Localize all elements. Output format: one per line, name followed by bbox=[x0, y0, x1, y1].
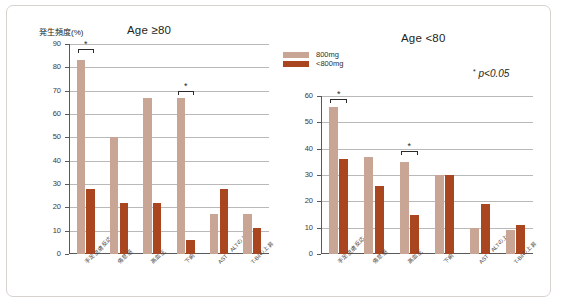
bracket-top bbox=[330, 99, 347, 100]
gridline bbox=[69, 44, 269, 45]
bar-age-lt-80-3-high bbox=[435, 175, 444, 254]
bar-age-ge-80-4-low bbox=[220, 189, 229, 254]
significance-bracket: * bbox=[78, 49, 94, 55]
bracket-right-leg bbox=[93, 49, 94, 53]
legend-swatch-800mg bbox=[283, 52, 309, 58]
bar-age-ge-80-5-high bbox=[243, 214, 252, 254]
y-tick-label: 90 bbox=[39, 39, 61, 48]
y-tick-label: 0 bbox=[291, 249, 313, 258]
bar-age-ge-80-3-high bbox=[177, 98, 186, 254]
bar-age-lt-80-3-low bbox=[445, 175, 454, 254]
legend-item-under-800mg: <800mg bbox=[283, 59, 343, 68]
gridline bbox=[69, 137, 269, 138]
y-axis-line bbox=[69, 44, 70, 254]
y-tick-label: 80 bbox=[39, 62, 61, 71]
bracket-left-leg bbox=[178, 91, 179, 95]
bracket-left-leg bbox=[78, 49, 79, 53]
chart-title-age-lt-80: Age <80 bbox=[401, 32, 446, 44]
plot-area-age-lt-80: 0102030405060手足皮膚反応倦怠感高血圧下痢AST・ALTの上昇T-B… bbox=[321, 96, 533, 254]
gridline bbox=[321, 122, 533, 123]
gridline bbox=[321, 175, 533, 176]
bar-age-ge-80-2-low bbox=[153, 203, 162, 254]
bar-age-ge-80-1-high bbox=[110, 137, 119, 254]
bracket-top bbox=[178, 91, 194, 92]
figure-frame: Age ≥80発生頻度(%)0102030405060708090手足皮膚反応倦… bbox=[6, 5, 551, 297]
significance-bracket: * bbox=[401, 151, 418, 157]
bracket-left-leg bbox=[401, 151, 402, 155]
y-tick bbox=[65, 254, 69, 255]
y-tick bbox=[317, 254, 321, 255]
bracket-top bbox=[401, 151, 418, 152]
gridline bbox=[69, 91, 269, 92]
bracket-left-leg bbox=[330, 99, 331, 103]
gridline bbox=[321, 96, 533, 97]
bar-age-lt-80-2-high bbox=[400, 162, 409, 254]
y-tick-label: 10 bbox=[291, 223, 313, 232]
y-tick-label: 20 bbox=[291, 196, 313, 205]
legend-swatch-under-800mg bbox=[283, 61, 309, 67]
y-tick-label: 70 bbox=[39, 86, 61, 95]
significance-asterisk: * bbox=[401, 142, 418, 151]
y-tick-label: 50 bbox=[291, 117, 313, 126]
bar-age-lt-80-0-high bbox=[329, 107, 338, 254]
significance-asterisk: * bbox=[178, 82, 194, 91]
y-tick-label: 60 bbox=[291, 91, 313, 100]
significance-asterisk: * bbox=[78, 40, 94, 49]
gridline bbox=[69, 231, 269, 232]
y-tick-label: 40 bbox=[39, 156, 61, 165]
gridline bbox=[69, 161, 269, 162]
y-tick-label: 10 bbox=[39, 226, 61, 235]
bracket-right-leg bbox=[346, 99, 347, 103]
bar-age-ge-80-0-high bbox=[77, 60, 86, 254]
y-axis-title-age-ge-80: 発生頻度(%) bbox=[39, 26, 83, 37]
p-value-note: * p<0.05 bbox=[473, 68, 509, 79]
bar-age-lt-80-4-high bbox=[470, 228, 479, 254]
y-tick-label: 60 bbox=[39, 109, 61, 118]
p-value-text: p<0.05 bbox=[479, 68, 510, 79]
bar-age-lt-80-4-low bbox=[481, 204, 490, 254]
gridline bbox=[321, 149, 533, 150]
gridline bbox=[69, 114, 269, 115]
bar-age-ge-80-2-high bbox=[143, 98, 152, 254]
bar-age-lt-80-1-high bbox=[364, 157, 373, 254]
y-tick-label: 50 bbox=[39, 132, 61, 141]
y-tick-label: 40 bbox=[291, 144, 313, 153]
significance-bracket: * bbox=[330, 99, 347, 105]
gridline bbox=[69, 67, 269, 68]
bar-age-ge-80-4-high bbox=[210, 214, 219, 254]
legend-label-under-800mg: <800mg bbox=[316, 59, 343, 68]
chart-panel-age-ge-80: Age ≥80発生頻度(%)0102030405060708090手足皮膚反応倦… bbox=[17, 14, 279, 298]
bar-age-ge-80-1-low bbox=[120, 203, 129, 254]
y-tick-label: 30 bbox=[39, 179, 61, 188]
y-axis-line bbox=[321, 96, 322, 254]
y-tick-label: 30 bbox=[291, 170, 313, 179]
legend-item-800mg: 800mg bbox=[283, 50, 339, 59]
y-tick-label: 20 bbox=[39, 202, 61, 211]
bracket-top bbox=[78, 49, 94, 50]
bar-age-ge-80-0-low bbox=[86, 189, 95, 254]
significance-bracket: * bbox=[178, 91, 194, 97]
significance-asterisk: * bbox=[330, 90, 347, 99]
legend-label-800mg: 800mg bbox=[316, 50, 339, 59]
gridline bbox=[321, 228, 533, 229]
gridline bbox=[69, 184, 269, 185]
bracket-right-leg bbox=[193, 91, 194, 95]
chart-title-age-ge-80: Age ≥80 bbox=[127, 24, 171, 36]
plot-area-age-ge-80: 0102030405060708090手足皮膚反応倦怠感高血圧下痢AST・ALT… bbox=[69, 44, 269, 254]
bar-age-lt-80-1-low bbox=[375, 186, 384, 254]
bracket-right-leg bbox=[417, 151, 418, 155]
bar-age-lt-80-0-low bbox=[339, 159, 348, 254]
significance-asterisk: * bbox=[473, 68, 476, 75]
gridline bbox=[321, 201, 533, 202]
y-tick-label: 0 bbox=[39, 249, 61, 258]
bar-age-lt-80-5-high bbox=[506, 230, 515, 254]
gridline bbox=[69, 207, 269, 208]
